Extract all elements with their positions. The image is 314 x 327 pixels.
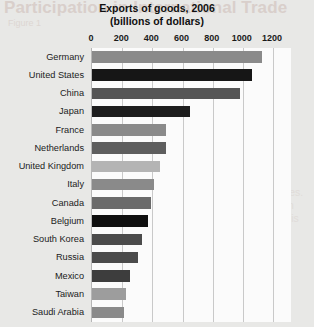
bar-row [92, 103, 291, 121]
bar [92, 307, 124, 319]
bar [92, 161, 160, 173]
bar-row [92, 121, 291, 139]
x-tick-label: 0 [88, 33, 93, 43]
bar-row [92, 194, 291, 212]
x-tick-label: 600 [174, 33, 189, 43]
bar-row [92, 66, 291, 84]
category-label: United Kingdom [19, 161, 84, 172]
category-label: Taiwan [55, 289, 84, 300]
category-label: Belgium [51, 216, 84, 227]
x-tick-label: 400 [144, 33, 159, 43]
chart-title: Exports of goods, 2006 [0, 2, 314, 15]
bar-row [92, 304, 291, 322]
x-tick-label: 1200 [262, 33, 282, 43]
category-label: Japan [59, 106, 84, 117]
category-label: United States [29, 70, 84, 81]
bar-row [92, 231, 291, 249]
category-label: Saudi Arabia [32, 307, 84, 318]
bar [92, 88, 240, 100]
bar-row [92, 176, 291, 194]
plot-area [91, 48, 291, 322]
bar [92, 234, 142, 246]
bar-row [92, 212, 291, 230]
category-label: France [55, 125, 84, 136]
category-label: China [60, 88, 84, 99]
bar [92, 215, 148, 227]
bar [92, 252, 138, 264]
chart-title-block: Exports of goods, 2006 (billions of doll… [0, 2, 314, 28]
x-axis-tick-labels: 020040060080010001200 [91, 33, 290, 47]
category-label: Canada [52, 198, 84, 209]
bar-row [92, 139, 291, 157]
bar-row [92, 158, 291, 176]
category-label: Mexico [55, 271, 84, 282]
bar-row [92, 249, 291, 267]
x-tick-label: 200 [114, 33, 129, 43]
bar [92, 179, 154, 191]
bar [92, 124, 166, 136]
bar [92, 106, 190, 118]
category-label: Germany [46, 52, 84, 63]
bar [92, 51, 262, 63]
bar [92, 288, 126, 300]
bar [92, 142, 166, 154]
bar-row [92, 85, 291, 103]
category-label: South Korea [33, 234, 84, 245]
bar [92, 69, 252, 81]
category-axis-labels: GermanyUnited StatesChinaJapanFranceNeth… [0, 48, 88, 322]
chart-subtitle: (billions of dollars) [0, 15, 314, 28]
category-label: Russia [56, 252, 84, 263]
bar-row [92, 267, 291, 285]
bar-row [92, 48, 291, 66]
x-tick-label: 800 [204, 33, 219, 43]
bar-row [92, 285, 291, 303]
bar [92, 197, 151, 209]
category-label: Italy [67, 179, 84, 190]
exports-bar-chart: Exports of goods, 2006 (billions of doll… [0, 0, 314, 327]
category-label: Netherlands [34, 143, 84, 154]
x-tick-label: 1000 [232, 33, 252, 43]
bar [92, 270, 130, 282]
